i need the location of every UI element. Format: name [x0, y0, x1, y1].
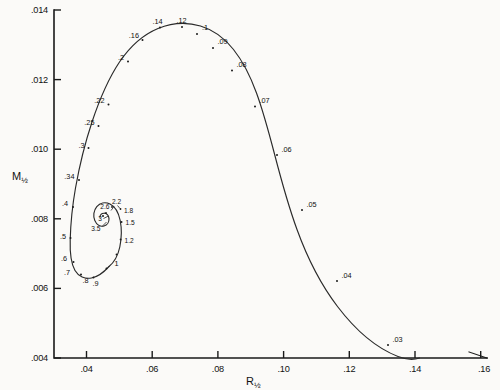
data-point: [387, 344, 389, 346]
point-label: .09: [218, 37, 228, 46]
point-label: 2.6: [100, 203, 109, 210]
y-tick-labels: .014 .012 .010 .008 .006 .004: [31, 5, 48, 363]
point-label: .2: [118, 53, 124, 62]
x-tick-marks: [87, 351, 481, 358]
data-point: [70, 237, 72, 239]
data-point: [254, 106, 256, 108]
point-label: .4: [62, 199, 68, 208]
point-label: .3: [78, 141, 84, 150]
point-label: .12: [176, 16, 186, 25]
point-label: .22: [94, 96, 104, 105]
data-point: [106, 268, 108, 270]
x-axis-title: R½: [246, 375, 261, 390]
point-label: .16: [129, 31, 139, 40]
point-label: 1: [115, 259, 119, 268]
point-label: 2.2: [112, 198, 121, 205]
x-tick-label: .08: [212, 364, 224, 374]
point-label: .6: [61, 254, 67, 263]
data-point: [142, 39, 144, 41]
y-tick-label: .004: [31, 353, 48, 363]
data-point: [102, 215, 104, 217]
chart-svg: .014 .012 .010 .008 .006 .004 .04 .06 .0…: [0, 0, 500, 390]
x-tick-label: .10: [278, 364, 290, 374]
data-point: [212, 47, 214, 49]
data-point: [78, 179, 80, 181]
data-point: [116, 254, 118, 256]
point-label: .04: [342, 271, 352, 280]
data-point: [120, 239, 122, 241]
point-label: .34: [64, 172, 74, 181]
data-point: [276, 154, 278, 156]
x-tick-label: .12: [343, 364, 355, 374]
point-label: 1.2: [125, 237, 134, 244]
point-label: .07: [260, 96, 270, 105]
x-tick-label: .06: [146, 364, 158, 374]
data-point: [105, 212, 107, 214]
x-tick-labels: .04 .06 .08 .10 .12 .14 .16: [80, 364, 490, 374]
data-points: [70, 26, 390, 346]
x-tick-label: .14: [409, 364, 421, 374]
y-tick-label: .010: [31, 144, 48, 154]
point-label: 3: [98, 215, 102, 222]
point-label: .03: [393, 335, 403, 344]
point-label: .7: [64, 268, 70, 277]
data-point: [127, 61, 129, 63]
data-point: [98, 125, 100, 127]
data-point: [301, 209, 303, 211]
leader-line: [104, 216, 109, 219]
data-curve: [70, 24, 419, 360]
y-tick-label: .012: [31, 75, 48, 85]
data-point: [73, 261, 75, 263]
data-point: [159, 27, 161, 29]
data-point: [196, 33, 198, 35]
point-label: .5: [60, 232, 66, 241]
data-point: [231, 70, 233, 72]
point-label: .06: [282, 145, 292, 154]
y-axis-title: M½: [12, 170, 28, 185]
point-label: .8: [82, 276, 88, 285]
x-tick-label: .04: [80, 364, 92, 374]
point-label: 1.8: [124, 207, 133, 214]
y-tick-label: .006: [31, 283, 48, 293]
data-point: [121, 221, 123, 223]
curve-inner-spiral: [94, 203, 122, 267]
x-tick-label: .16: [478, 364, 490, 374]
point-label: .1: [202, 23, 208, 32]
data-point: [111, 206, 113, 208]
point-label: .08: [237, 60, 247, 69]
spiral-point-labels: 3.5 3 2.6 2.2 1.8 1.5 1.2: [91, 198, 135, 245]
data-point: [108, 104, 110, 106]
axis-titles: M½ R½: [12, 170, 261, 390]
chart-canvas: .014 .012 .010 .008 .006 .004 .04 .06 .0…: [0, 0, 500, 390]
y-tick-label: .008: [31, 214, 48, 224]
data-point: [181, 26, 183, 28]
data-point: [336, 280, 338, 282]
data-point: [72, 206, 74, 208]
point-label: .14: [152, 17, 162, 26]
point-label: .9: [92, 279, 98, 288]
axis-arrow-tail: [469, 352, 487, 358]
y-tick-marks: [54, 10, 61, 358]
point-labels: 1 .9 .8 .7 .6 .5 .4 .34 .3 .25 .22 .2 .1…: [60, 16, 403, 345]
point-label: 1.5: [126, 219, 135, 226]
leader-line: [118, 206, 121, 209]
point-label: 3.5: [91, 225, 100, 232]
curve-main: [70, 24, 419, 360]
data-point: [88, 147, 90, 149]
point-label: .05: [307, 200, 317, 209]
point-label: .25: [84, 118, 94, 127]
y-tick-label: .014: [31, 5, 48, 15]
